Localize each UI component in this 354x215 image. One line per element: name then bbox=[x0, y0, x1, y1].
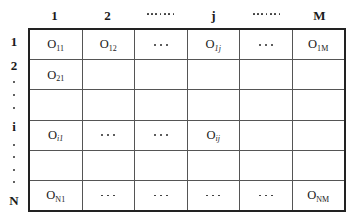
matrix-table: O11O12O1jO1MO21Oi1OijON1ONM bbox=[28, 28, 346, 212]
matrix-symbol: Oi1 bbox=[48, 129, 63, 142]
column-header-label: M bbox=[313, 9, 325, 22]
matrix-cell-O1j: O1j bbox=[188, 30, 241, 59]
dot-icon bbox=[13, 169, 15, 171]
row-label-ellipsis-dot bbox=[2, 176, 26, 188]
matrix-cell-ellipsis bbox=[135, 30, 188, 59]
ellipsis-icon bbox=[154, 134, 168, 136]
row-label-text: i bbox=[12, 120, 16, 133]
symbol-base: O bbox=[46, 189, 55, 202]
column-header-label: j bbox=[211, 9, 216, 22]
dot-icon bbox=[13, 94, 15, 96]
ellipsis-icon bbox=[101, 195, 115, 197]
matrix-cell-ellipsis bbox=[240, 181, 293, 210]
symbol-subscript: 12 bbox=[109, 45, 117, 53]
row-label-text: 2 bbox=[11, 59, 18, 72]
matrix-cell-empty bbox=[240, 90, 293, 119]
matrix-cell-empty bbox=[240, 151, 293, 180]
symbol-base: O bbox=[47, 38, 56, 51]
matrix-cell-empty bbox=[293, 60, 345, 89]
matrix-cell-empty bbox=[135, 151, 188, 180]
matrix-symbol: O21 bbox=[47, 69, 64, 82]
column-header-M: M bbox=[293, 4, 346, 26]
matrix-symbol: O1j bbox=[206, 38, 221, 51]
matrix-cell-empty bbox=[240, 121, 293, 150]
symbol-base: O bbox=[206, 129, 215, 142]
matrix-symbol: O1M bbox=[308, 38, 328, 51]
matrix-cell-ellipsis bbox=[240, 30, 293, 59]
matrix-cell-O21: O21 bbox=[30, 60, 83, 89]
column-header-2: 2 bbox=[81, 4, 134, 26]
column-header-j: j bbox=[187, 4, 240, 26]
column-header-1: 1 bbox=[28, 4, 81, 26]
symbol-base: O bbox=[100, 38, 109, 51]
ellipsis-icon bbox=[154, 44, 168, 46]
symbol-base: O bbox=[206, 38, 215, 51]
symbol-subscript: ij bbox=[215, 135, 220, 143]
table-row bbox=[30, 151, 344, 181]
symbol-subscript: 1j bbox=[215, 45, 221, 53]
matrix-cell-Oij: Oij bbox=[188, 121, 241, 150]
row-label-ellipsis-dot bbox=[2, 139, 26, 151]
row-label-ellipsis-dot bbox=[2, 89, 26, 102]
dot-icon bbox=[13, 81, 15, 83]
row-label-text: N bbox=[9, 194, 18, 207]
matrix-cell-empty bbox=[293, 151, 345, 180]
matrix-cell-O12: O12 bbox=[83, 30, 136, 59]
symbol-base: O bbox=[308, 38, 317, 51]
matrix-cell-ON1: ON1 bbox=[30, 181, 83, 210]
row-label-ellipsis-dot bbox=[2, 164, 26, 176]
ellipsis-icon bbox=[259, 195, 273, 197]
matrix-symbol: O11 bbox=[47, 38, 64, 51]
matrix-symbol: Oij bbox=[206, 129, 220, 142]
symbol-subscript: 11 bbox=[56, 45, 64, 53]
table-row bbox=[30, 90, 344, 120]
ellipsis-icon bbox=[259, 44, 273, 46]
column-header-label: 1 bbox=[51, 9, 58, 22]
symbol-subscript: 21 bbox=[56, 75, 64, 83]
matrix-cell-empty bbox=[188, 90, 241, 119]
row-label-2: 2 bbox=[2, 54, 26, 75]
symbol-subscript: NM bbox=[316, 196, 329, 204]
symbol-subscript: i1 bbox=[57, 135, 63, 143]
column-header-ellipsis bbox=[134, 4, 187, 26]
symbol-subscript: 1M bbox=[317, 45, 328, 53]
matrix-cell-ellipsis bbox=[188, 181, 241, 210]
matrix-figure: 12jM 12iN O11O12O1jO1MO21Oi1OijON1ONM bbox=[0, 0, 354, 215]
matrix-cell-ellipsis bbox=[135, 121, 188, 150]
row-label-ellipsis-dot bbox=[2, 151, 26, 163]
matrix-cell-empty bbox=[30, 90, 83, 119]
matrix-cell-empty bbox=[188, 151, 241, 180]
table-row: Oi1Oij bbox=[30, 121, 344, 151]
matrix-cell-empty bbox=[83, 151, 136, 180]
matrix-cell-O11: O11 bbox=[30, 30, 83, 59]
row-label-text: 1 bbox=[11, 35, 18, 48]
matrix-cell-empty bbox=[240, 60, 293, 89]
table-row: ON1ONM bbox=[30, 181, 344, 210]
matrix-cell-empty bbox=[83, 60, 136, 89]
dot-icon bbox=[13, 144, 15, 146]
row-label-N: N bbox=[2, 188, 26, 212]
matrix-cell-empty bbox=[188, 60, 241, 89]
matrix-cell-empty bbox=[83, 90, 136, 119]
symbol-base: O bbox=[48, 129, 57, 142]
column-header-row: 12jM bbox=[28, 4, 346, 26]
ellipsis-icon bbox=[147, 13, 174, 17]
symbol-subscript: N1 bbox=[55, 196, 65, 204]
table-row: O11O12O1jO1M bbox=[30, 30, 344, 60]
matrix-cell-empty bbox=[293, 90, 345, 119]
dot-icon bbox=[13, 181, 15, 183]
dot-icon bbox=[13, 156, 15, 158]
table-row: O21 bbox=[30, 60, 344, 90]
row-label-ellipsis-dot bbox=[2, 76, 26, 89]
matrix-cell-empty bbox=[30, 151, 83, 180]
matrix-symbol: O12 bbox=[100, 38, 117, 51]
column-header-label: 2 bbox=[104, 9, 111, 22]
symbol-base: O bbox=[307, 189, 316, 202]
matrix-cell-empty bbox=[135, 60, 188, 89]
row-label-1: 1 bbox=[2, 28, 26, 54]
ellipsis-icon bbox=[101, 134, 115, 136]
matrix-cell-ONM: ONM bbox=[293, 181, 345, 210]
matrix-cell-ellipsis bbox=[135, 181, 188, 210]
row-label-column: 12iN bbox=[2, 28, 26, 212]
matrix-cell-empty bbox=[293, 121, 345, 150]
